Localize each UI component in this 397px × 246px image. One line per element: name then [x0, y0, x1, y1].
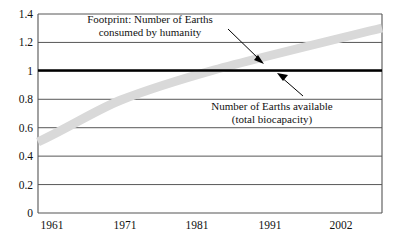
earths-footprint-chart: 1.4 1.2 1 0.8 0.6 0.4 0.2 0 1961 1971 19… — [0, 0, 397, 246]
footprint-annotation-line2: consumed by humanity — [99, 26, 202, 38]
y-tick-label-1.4: 1.4 — [19, 8, 34, 20]
y-tick-label-0.2: 0.2 — [19, 179, 34, 191]
chart-canvas: 1.4 1.2 1 0.8 0.6 0.4 0.2 0 1961 1971 19… — [0, 0, 397, 246]
x-axis-tick-labels: 1961 1971 1981 1991 2002 — [41, 219, 353, 231]
y-tick-label-0.6: 0.6 — [19, 122, 34, 134]
y-tick-label-1: 1 — [27, 65, 33, 77]
biocapacity-annotation-line1: Number of Earths available — [211, 100, 332, 112]
x-tick-label-1961: 1961 — [41, 219, 64, 231]
y-tick-label-0: 0 — [27, 207, 33, 219]
y-tick-label-0.8: 0.8 — [19, 93, 34, 105]
footprint-annotation-line1: Footprint: Number of Earths — [87, 13, 213, 25]
x-tick-label-1991: 1991 — [259, 219, 282, 231]
y-tick-label-1.2: 1.2 — [19, 36, 34, 48]
x-tick-label-1971: 1971 — [114, 219, 137, 231]
x-tick-label-2002: 2002 — [330, 219, 353, 231]
x-tick-label-1981: 1981 — [186, 219, 209, 231]
biocapacity-annotation-line2: (total biocapacity) — [232, 113, 313, 126]
y-axis-tick-labels: 1.4 1.2 1 0.8 0.6 0.4 0.2 0 — [19, 8, 34, 219]
y-tick-label-0.4: 0.4 — [19, 150, 34, 162]
